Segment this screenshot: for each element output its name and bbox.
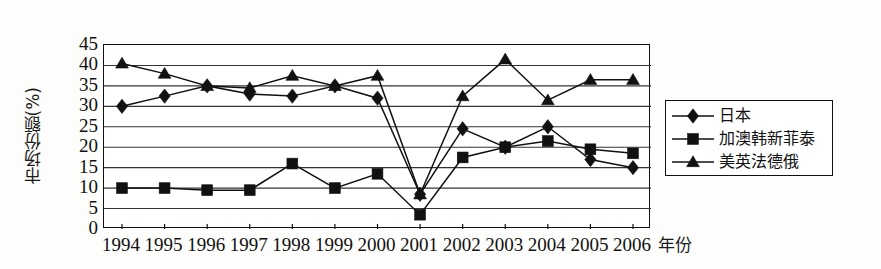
data-point-square [628, 148, 639, 159]
data-point-triangle [584, 74, 597, 85]
x-tick-label-2006: 2006 [604, 234, 660, 256]
data-point-square [330, 183, 341, 194]
x-axis-tick-labels: 1994199519961997199819992000200120022003… [103, 234, 650, 260]
series-2 [117, 136, 639, 220]
y-tick-label-45: 45 [52, 34, 98, 53]
plot-area [103, 44, 650, 228]
y-tick-label-0: 0 [52, 218, 98, 237]
data-point-diamond [159, 89, 170, 103]
y-axis-title: 市场份额(%) [18, 38, 46, 233]
data-point-square [159, 183, 170, 194]
line-chart-figure: 市场份额(%) 051015202530354045 1994199519961… [0, 0, 881, 269]
data-point-square [117, 183, 128, 194]
y-tick-label-30: 30 [52, 95, 98, 114]
y-axis-tick-labels: 051015202530354045 [50, 0, 98, 269]
data-point-triangle [286, 69, 299, 80]
x-axis-ticks [122, 224, 633, 229]
data-point-diamond [287, 89, 298, 103]
data-point-diamond [542, 120, 553, 134]
y-axis-title-text: 市场份额(%) [20, 87, 45, 184]
data-point-square [415, 209, 426, 220]
legend-label: 加澳韩新菲泰 [715, 130, 815, 148]
legend-item-2[interactable]: 加澳韩新菲泰 [671, 127, 827, 150]
data-point-square [457, 152, 468, 163]
x-axis-title: 年份 [658, 234, 692, 256]
data-point-diamond [627, 160, 638, 174]
data-point-square [500, 142, 511, 153]
data-point-triangle [499, 53, 512, 64]
legend-marker-square-icon [671, 129, 715, 149]
y-tick-label-5: 5 [52, 198, 98, 217]
legend-marker-glyph [688, 133, 699, 144]
data-point-triangle [371, 69, 384, 80]
legend-label: 日本 [715, 107, 751, 125]
legend-item-1[interactable]: 日本 [671, 104, 827, 127]
data-point-square [202, 185, 213, 196]
data-point-square [287, 158, 298, 169]
legend-label: 美英法德俄 [715, 153, 799, 171]
y-tick-label-35: 35 [52, 75, 98, 94]
series-1 [116, 79, 638, 202]
data-point-square [585, 144, 596, 155]
y-tick-label-40: 40 [52, 54, 98, 73]
data-point-square [372, 168, 383, 179]
chart-canvas [104, 45, 651, 229]
data-point-square [244, 185, 255, 196]
legend-marker-glyph [687, 155, 700, 166]
data-point-square [542, 136, 553, 147]
chart-legend: 日本加澳韩新菲泰美英法德俄 [665, 100, 833, 176]
legend-marker-glyph [687, 108, 698, 122]
legend-marker-triangle-icon [671, 152, 715, 172]
legend-marker-diamond-icon [671, 106, 715, 126]
data-point-diamond [372, 91, 383, 105]
gridlines [104, 65, 651, 208]
y-tick-label-15: 15 [52, 157, 98, 176]
data-point-diamond [116, 99, 127, 113]
legend-item-3[interactable]: 美英法德俄 [671, 150, 827, 173]
data-point-triangle [627, 74, 640, 85]
y-tick-label-20: 20 [52, 136, 98, 155]
y-tick-label-25: 25 [52, 116, 98, 135]
data-point-triangle [116, 57, 129, 68]
y-tick-label-10: 10 [52, 177, 98, 196]
